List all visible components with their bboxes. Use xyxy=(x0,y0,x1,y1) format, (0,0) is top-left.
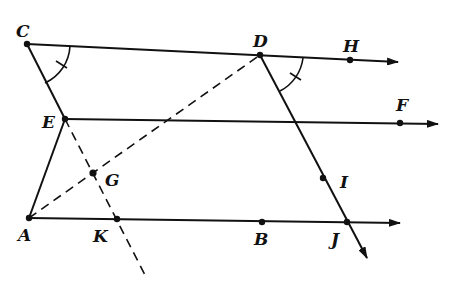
point-D xyxy=(257,52,263,58)
segment-CE xyxy=(27,44,65,119)
geometry-diagram: C D H E F G I A K B J xyxy=(0,0,456,287)
point-A xyxy=(26,215,32,221)
label-J: J xyxy=(328,229,340,249)
point-B xyxy=(259,219,265,225)
point-J xyxy=(344,219,350,225)
label-A: A xyxy=(16,225,31,245)
label-E: E xyxy=(41,112,56,132)
angle-mark-ECD xyxy=(45,46,70,83)
label-D: D xyxy=(252,31,268,51)
point-G xyxy=(89,169,96,176)
label-G: G xyxy=(105,170,120,190)
point-F xyxy=(397,120,403,126)
dashed-AD xyxy=(29,55,260,218)
label-C: C xyxy=(16,21,30,41)
dashed-EK-extended xyxy=(65,119,145,275)
point-C xyxy=(24,41,30,47)
point-K xyxy=(114,216,120,222)
label-H: H xyxy=(342,36,360,56)
angle-tick-HDJ xyxy=(290,73,301,80)
point-H xyxy=(347,57,353,63)
segment-EA xyxy=(29,119,65,218)
label-I: I xyxy=(339,172,349,192)
label-K: K xyxy=(92,226,109,246)
diagram-svg: C D H E F G I A K B J xyxy=(0,0,456,287)
ray-DJ xyxy=(260,55,367,258)
label-F: F xyxy=(395,95,410,115)
point-E xyxy=(62,116,68,122)
ray-EF xyxy=(65,119,438,124)
point-I xyxy=(320,175,326,181)
label-B: B xyxy=(253,229,268,249)
